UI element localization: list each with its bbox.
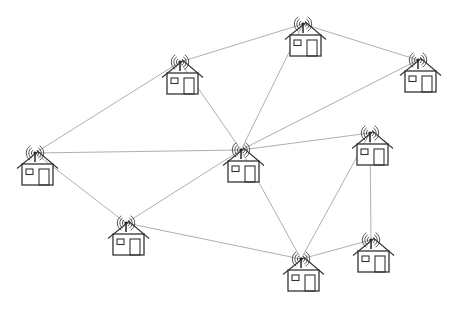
link-h7-h8 [126, 223, 301, 259]
link-h5-h6 [241, 133, 370, 150]
link-h3-h5 [241, 60, 418, 150]
link-h5-h7 [126, 150, 241, 223]
link-h4-h5 [35, 150, 241, 153]
link-h1-h4 [35, 62, 180, 153]
house-icon [283, 258, 324, 292]
house-node[interactable]: House 2 [285, 17, 326, 56]
house-node[interactable]: House 7 [108, 216, 149, 255]
house-icon [400, 59, 441, 93]
house-node[interactable]: House 8 [283, 252, 324, 291]
house-icon [17, 152, 58, 186]
house-node[interactable]: House 6 [352, 126, 393, 165]
house-node[interactable]: House 1 [162, 55, 203, 94]
house-node[interactable]: House 9 [353, 233, 394, 272]
network-diagram: House 1House 2House 3House 4House 5House… [0, 0, 467, 312]
link-h1-h2 [180, 24, 303, 62]
house-node[interactable]: House 3 [400, 53, 441, 92]
house-node[interactable]: House 4 [17, 146, 58, 185]
house-node[interactable]: House 5 [223, 143, 264, 182]
nodes-layer: House 1House 2House 3House 4House 5House… [17, 17, 441, 291]
house-icon [352, 132, 393, 166]
house-icon [223, 149, 264, 183]
